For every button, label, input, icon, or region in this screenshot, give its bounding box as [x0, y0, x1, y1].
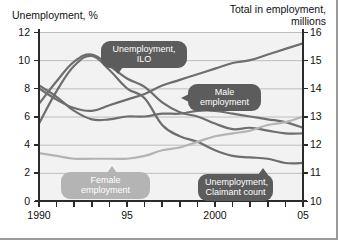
x-tick-mark — [197, 202, 199, 207]
y-tick-mark-right — [303, 32, 308, 34]
y-tick-mark-right — [303, 172, 308, 174]
x-tick-mark — [249, 202, 251, 207]
x-tick-mark — [267, 202, 269, 207]
y-tick-label-left: 2 — [8, 166, 30, 178]
y-tick-mark-left — [34, 32, 39, 34]
y-tick-label-left: 0 — [8, 195, 30, 207]
y-tick-mark-left — [34, 144, 39, 146]
series-callout: Unemployment, ILO — [101, 41, 187, 68]
y-tick-label-right: 16 — [310, 26, 334, 38]
x-tick-mark — [109, 202, 111, 207]
series-line — [39, 117, 303, 159]
x-tick-mark — [179, 202, 181, 207]
y-tick-mark-right — [303, 60, 308, 62]
x-tick-mark — [56, 202, 58, 207]
x-tick-mark — [302, 202, 304, 207]
callout-tail — [181, 94, 189, 102]
x-tick-mark — [91, 202, 93, 207]
y-tick-mark-left — [34, 172, 39, 174]
series-line — [39, 86, 303, 128]
x-tick-mark — [232, 202, 234, 207]
callout-tail — [258, 168, 268, 175]
x-tick-mark — [214, 202, 216, 207]
x-tick-mark — [126, 202, 128, 207]
y-tick-label-right: 14 — [310, 82, 334, 94]
right-axis-title: Total in employment, millions — [206, 4, 326, 28]
y-tick-mark-right — [303, 116, 308, 118]
y-tick-label-left: 8 — [8, 82, 30, 94]
x-tick-label: 05 — [283, 209, 323, 221]
y-tick-label-right: 10 — [310, 195, 334, 207]
series-callout: Female employment — [61, 172, 150, 199]
series-callout: Male employment — [188, 84, 261, 111]
chart-figure: Unemployment, % Total in employment, mil… — [0, 0, 338, 240]
x-tick-mark — [73, 202, 75, 207]
series-callout: Unemployment, Claimant count — [198, 174, 273, 201]
left-axis-title: Unemployment, % — [12, 10, 98, 22]
y-tick-mark-left — [34, 116, 39, 118]
x-tick-mark — [144, 202, 146, 207]
x-tick-mark — [161, 202, 163, 207]
x-tick-label: 95 — [107, 209, 147, 221]
x-tick-label: 2000 — [195, 209, 235, 221]
x-tick-label: 1990 — [19, 209, 59, 221]
callout-tail — [107, 166, 117, 173]
y-tick-mark-right — [303, 144, 308, 146]
y-tick-label-left: 6 — [8, 110, 30, 122]
callout-tail — [113, 67, 123, 74]
y-tick-label-right: 15 — [310, 54, 334, 66]
y-tick-mark-left — [34, 88, 39, 90]
y-tick-label-left: 4 — [8, 138, 30, 150]
y-tick-label-left: 12 — [8, 26, 30, 38]
y-tick-label-right: 12 — [310, 138, 334, 150]
x-tick-mark — [38, 202, 40, 207]
y-tick-label-right: 11 — [310, 166, 334, 178]
x-tick-mark — [285, 202, 287, 207]
y-tick-mark-right — [303, 88, 308, 90]
y-tick-label-right: 13 — [310, 110, 334, 122]
y-tick-label-left: 10 — [8, 54, 30, 66]
y-tick-mark-left — [34, 60, 39, 62]
